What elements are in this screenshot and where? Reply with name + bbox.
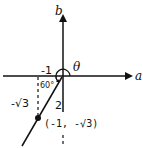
theta-label: θ bbox=[73, 60, 81, 74]
sixty-degree-label: 60° bbox=[40, 81, 54, 90]
b-axis-label: b bbox=[55, 4, 63, 18]
a-axis-label: a bbox=[135, 69, 142, 83]
complex-plane-diagram: b a θ -1 60° -√3 2 (-1, -√3) bbox=[0, 0, 143, 148]
point-marker bbox=[35, 115, 41, 121]
neg-sqrt3-label: -√3 bbox=[11, 97, 29, 110]
x-tick-label: -1 bbox=[41, 64, 52, 77]
point-coordinate-label: (-1, -√3) bbox=[44, 118, 98, 129]
hypotenuse-label: 2 bbox=[55, 99, 62, 112]
